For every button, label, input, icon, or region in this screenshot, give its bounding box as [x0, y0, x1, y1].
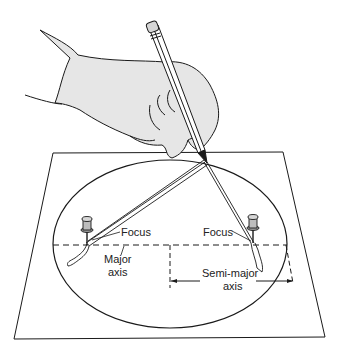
major-axis-label-1: Major [104, 253, 132, 265]
hand-illustration [25, 30, 219, 158]
semi-major-label-2: axis [223, 280, 243, 292]
focus-left-label: Focus [121, 226, 151, 238]
semi-major-label-1: Semi-major [202, 267, 259, 279]
focus-right-label: Focus [203, 226, 233, 238]
major-axis-label-2: axis [108, 266, 128, 278]
ellipse-drawing-diagram: Focus Focus Major axis Semi-major axis [0, 0, 340, 351]
